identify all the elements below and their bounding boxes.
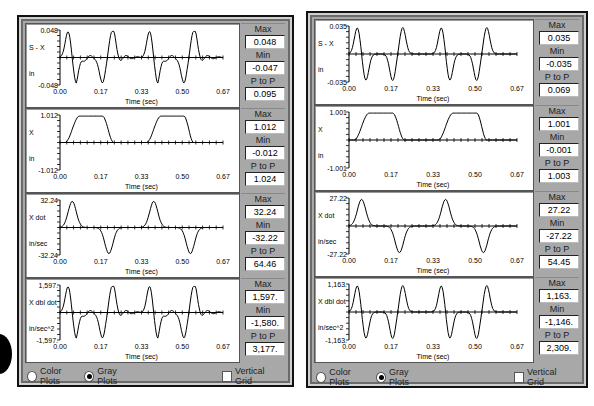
x-tick-label: 0.17 bbox=[94, 343, 108, 350]
color-plots-label: Color Plots bbox=[329, 367, 369, 387]
stats-panel: Max 32.24 Min -32.22 P to P 64.46 bbox=[241, 193, 285, 279]
gray-plots-radio[interactable]: Gray Plots bbox=[84, 366, 134, 386]
min-label: Min bbox=[241, 305, 285, 316]
x-axis-title: Time (sec) bbox=[125, 353, 158, 361]
x-tick-label: 0.00 bbox=[342, 85, 356, 92]
plot-area-s-minus-x: 0.035 -0.035 S - X in 0.000.170.330.500.… bbox=[314, 19, 534, 105]
line-chart: 1.012 -1.012 X in 0.000.170.330.500.67 T… bbox=[26, 109, 239, 192]
x-tick-label: 0.67 bbox=[510, 171, 524, 178]
line-chart: 27.22 -27.22 X dot in/sec 0.000.170.330.… bbox=[315, 192, 533, 276]
plot-area-x: 1.012 -1.012 X in 0.000.170.330.500.67 T… bbox=[25, 108, 240, 193]
max-value: 1,597. bbox=[245, 290, 285, 304]
x-tick-label: 0.33 bbox=[135, 343, 149, 350]
x-tick-label: 0.33 bbox=[135, 88, 149, 95]
unit-label: in/sec^2 bbox=[29, 325, 55, 332]
min-value: -0.047 bbox=[245, 61, 285, 75]
vertical-grid-label: Vertical Grid bbox=[235, 366, 278, 386]
x-axis-title: Time (sec) bbox=[125, 268, 158, 276]
x-tick-label: 0.67 bbox=[216, 343, 230, 350]
waveform-line bbox=[349, 113, 517, 140]
unit-label: in bbox=[29, 70, 35, 77]
x-tick-label: 0.50 bbox=[175, 88, 189, 95]
signal-label: X bbox=[29, 129, 34, 136]
color-plots-label: Color Plots bbox=[40, 366, 79, 386]
max-label: Max bbox=[241, 24, 285, 35]
x-tick-label: 0.50 bbox=[468, 343, 482, 350]
radio-selected-icon bbox=[84, 371, 94, 382]
color-plots-radio[interactable]: Color Plots bbox=[27, 366, 78, 386]
plot-window-right: 0.035 -0.035 S - X in 0.000.170.330.500.… bbox=[306, 11, 588, 388]
plot-area-x-dot: 27.22 -27.22 X dot in/sec 0.000.170.330.… bbox=[314, 191, 534, 277]
max-label: Max bbox=[241, 109, 285, 120]
x-tick-label: 0.17 bbox=[384, 85, 398, 92]
x-axis-title: Time (sec) bbox=[125, 98, 158, 106]
x-tick-label: 0.67 bbox=[510, 257, 524, 264]
p-to-p-value: 0.095 bbox=[245, 87, 285, 101]
vertical-grid-checkbox[interactable]: Vertical Grid bbox=[222, 366, 278, 386]
min-label: Min bbox=[535, 304, 579, 315]
stats-panel: Max 0.048 Min -0.047 P to P 0.095 bbox=[241, 23, 285, 109]
plot-row-x: 1.012 -1.012 X in 0.000.170.330.500.67 T… bbox=[25, 108, 286, 193]
x-tick-label: 0.67 bbox=[510, 343, 524, 350]
vertical-grid-checkbox[interactable]: Vertical Grid bbox=[514, 367, 572, 387]
plot-area-x: 1.001 -1.001 X in 0.000.170.330.500.67 T… bbox=[314, 105, 534, 191]
line-chart: 0.035 -0.035 S - X in 0.000.170.330.500.… bbox=[315, 20, 533, 104]
x-tick-label: 0.50 bbox=[175, 343, 189, 350]
stats-panel: Max 1,597. Min -1,580. P to P 3,177. bbox=[241, 278, 285, 364]
plot-area-s-minus-x: 0.048 -0.048 S - X in 0.000.170.330.500.… bbox=[25, 23, 240, 108]
plot-row-x-dot: 27.22 -27.22 X dot in/sec 0.000.170.330.… bbox=[314, 191, 580, 277]
x-tick-label: 0.33 bbox=[426, 343, 440, 350]
x-tick-label: 0.17 bbox=[384, 257, 398, 264]
unit-label: in/sec bbox=[318, 238, 337, 245]
p-to-p-value: 0.069 bbox=[539, 83, 579, 97]
plot-row-x-dbl-dot: 1,163. -1,163. X dbl dot in/sec^2 0.000.… bbox=[314, 277, 580, 363]
plot-area-x-dbl-dot: 1,163. -1,163. X dbl dot in/sec^2 0.000.… bbox=[314, 277, 534, 363]
min-label: Min bbox=[241, 220, 285, 231]
x-tick-label: 0.00 bbox=[53, 88, 67, 95]
stats-panel: Max 1,163. Min -1,146. P to P 2,309. bbox=[535, 277, 579, 364]
stats-panel: Max 27.22 Min -27.22 P to P 54.45 bbox=[535, 191, 579, 278]
signal-label: S - X bbox=[29, 44, 45, 51]
x-tick-label: 0.50 bbox=[175, 173, 189, 180]
plot-row-x-dbl-dot: 1,597. -1,597. X dbl dot in/sec^2 0.000.… bbox=[25, 278, 286, 363]
max-label: Max bbox=[535, 106, 579, 117]
x-tick-label: 0.17 bbox=[384, 343, 398, 350]
min-label: Min bbox=[241, 135, 285, 146]
line-chart: 1.001 -1.001 X in 0.000.170.330.500.67 T… bbox=[315, 106, 533, 190]
gray-plots-radio[interactable]: Gray Plots bbox=[376, 367, 428, 387]
plot-row-s-minus-x: 0.048 -0.048 S - X in 0.000.170.330.500.… bbox=[25, 23, 286, 108]
p-to-p-label: P to P bbox=[241, 161, 285, 172]
x-tick-label: 0.00 bbox=[53, 258, 67, 265]
stats-panel: Max 0.035 Min -0.035 P to P 0.069 bbox=[535, 19, 579, 106]
p-to-p-value: 64.46 bbox=[245, 257, 285, 271]
min-label: Min bbox=[241, 50, 285, 61]
max-value: 32.24 bbox=[245, 205, 285, 219]
max-label: Max bbox=[535, 192, 579, 203]
max-value: 1.012 bbox=[245, 120, 285, 134]
min-label: Min bbox=[535, 218, 579, 229]
p-to-p-label: P to P bbox=[241, 76, 285, 87]
signal-label: S - X bbox=[318, 40, 334, 47]
max-value: 0.048 bbox=[245, 35, 285, 49]
x-tick-label: 0.33 bbox=[426, 85, 440, 92]
min-value: -32.22 bbox=[245, 231, 285, 245]
signal-label: X dbl dot bbox=[29, 299, 57, 306]
y-max-label: 32.24 bbox=[40, 197, 58, 204]
unit-label: in bbox=[318, 152, 324, 159]
max-value: 0.035 bbox=[539, 31, 579, 45]
decorative-blob bbox=[0, 334, 12, 374]
max-label: Max bbox=[535, 278, 579, 289]
max-label: Max bbox=[241, 194, 285, 205]
radio-icon bbox=[27, 371, 37, 382]
signal-label: X dot bbox=[318, 212, 334, 219]
x-axis-title: Time (sec) bbox=[417, 353, 450, 361]
x-tick-label: 0.67 bbox=[216, 258, 230, 265]
color-plots-radio[interactable]: Color Plots bbox=[316, 367, 370, 387]
y-max-label: 0.048 bbox=[40, 27, 58, 34]
signal-label: X dbl dot bbox=[318, 298, 346, 305]
max-value: 1.001 bbox=[539, 117, 579, 131]
max-label: Max bbox=[241, 279, 285, 290]
max-value: 27.22 bbox=[539, 203, 579, 217]
min-value: -0.035 bbox=[539, 57, 579, 71]
x-tick-label: 0.50 bbox=[468, 257, 482, 264]
